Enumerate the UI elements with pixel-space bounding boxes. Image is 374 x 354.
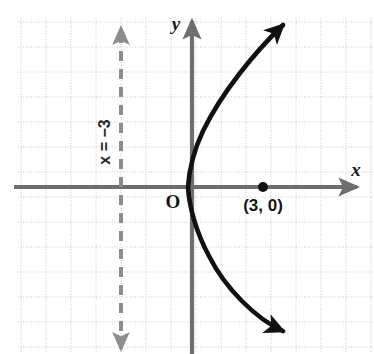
y-axis-label: y [170,13,181,34]
axes [14,21,357,354]
asymptote-label-group: x = −3 [96,119,113,164]
point-label: (3, 0) [243,196,283,215]
point-dot[interactable] [258,182,268,192]
origin-label: O [166,191,181,212]
parabola-curve-group [188,25,283,331]
coordinate-plane-graphic: (3, 0) O y x x = −3 [0,0,374,354]
asymptote-label: x = −3 [96,119,113,164]
parabola-curve [188,25,283,331]
x-axis-label: x [350,159,361,180]
graph-figure: (3, 0) O y x x = −3 [0,0,374,354]
